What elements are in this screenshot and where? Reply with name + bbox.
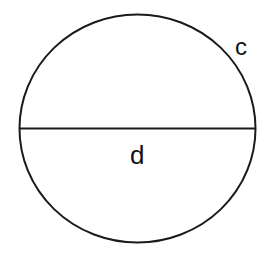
circumference-label: c	[235, 33, 247, 60]
diameter-label: d	[130, 140, 144, 170]
circle-diagram: c d	[0, 0, 265, 255]
